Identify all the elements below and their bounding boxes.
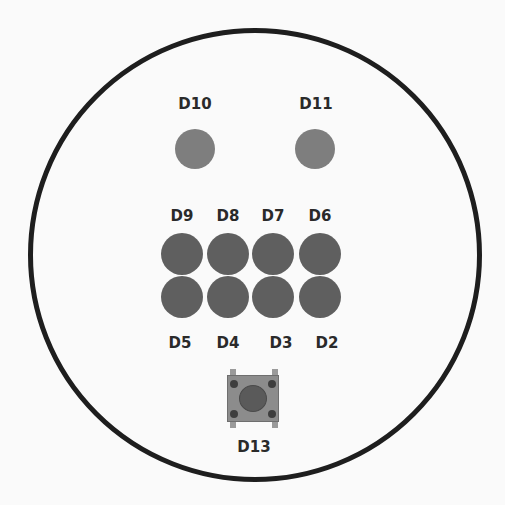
led-d2 bbox=[299, 276, 341, 318]
led-d10 bbox=[175, 129, 215, 169]
led-label-d7: D7 bbox=[262, 207, 285, 225]
button-pin-top-left bbox=[230, 380, 238, 388]
led-label-d4: D4 bbox=[217, 334, 240, 352]
circuit-board-diagram: D10 D11 D9 D8 D7 D6 D5 D4 D3 D2 D13 bbox=[0, 0, 505, 505]
led-label-d5: D5 bbox=[169, 334, 192, 352]
led-label-d8: D8 bbox=[217, 207, 240, 225]
led-label-d3: D3 bbox=[270, 334, 293, 352]
led-d9 bbox=[161, 233, 203, 275]
led-label-d6: D6 bbox=[309, 207, 332, 225]
led-d6 bbox=[299, 233, 341, 275]
led-d7 bbox=[252, 233, 294, 275]
led-label-d11: D11 bbox=[299, 95, 332, 113]
led-d5 bbox=[161, 276, 203, 318]
button-pin-top-right bbox=[268, 380, 276, 388]
led-d3 bbox=[252, 276, 294, 318]
led-label-d9: D9 bbox=[171, 207, 194, 225]
button-dome bbox=[239, 385, 267, 412]
led-d8 bbox=[207, 233, 249, 275]
button-pin-bottom-right bbox=[268, 410, 276, 418]
button-pin-bottom-left bbox=[230, 410, 238, 418]
led-label-d2: D2 bbox=[316, 334, 339, 352]
led-label-d10: D10 bbox=[178, 95, 211, 113]
button-label-d13: D13 bbox=[237, 438, 270, 456]
led-d11 bbox=[295, 129, 335, 169]
led-d4 bbox=[207, 276, 249, 318]
